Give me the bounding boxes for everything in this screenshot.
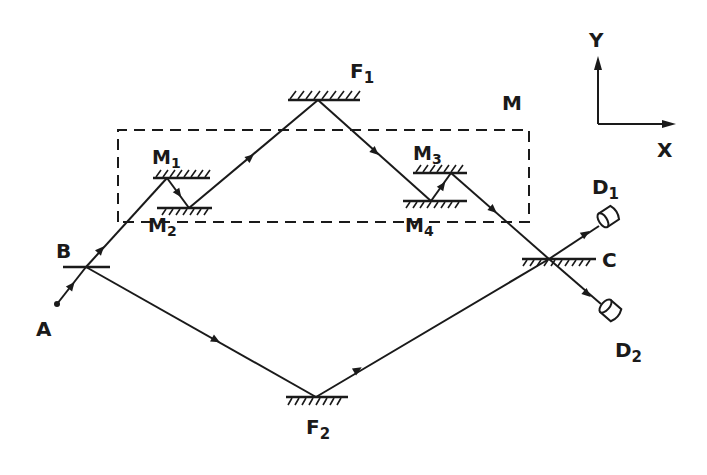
beam-c-d1 bbox=[549, 226, 599, 259]
label-d2: D2 bbox=[615, 338, 642, 366]
detector-d2-icon bbox=[597, 297, 623, 322]
axis-x-label: X bbox=[657, 138, 673, 162]
beam-m2-f1 bbox=[189, 100, 318, 208]
interferometer-diagram: M A B M1 bbox=[0, 0, 707, 475]
axis-y-label: Y bbox=[588, 28, 604, 52]
label-c: C bbox=[602, 248, 617, 272]
label-m4: M4 bbox=[405, 214, 434, 239]
beam-b-f2 bbox=[86, 267, 316, 397]
direction-arrows bbox=[66, 146, 594, 375]
label-b: B bbox=[56, 239, 71, 263]
mirror-m4-icon bbox=[403, 201, 467, 208]
beam-c-d2 bbox=[549, 259, 601, 304]
beam-f2-c bbox=[316, 259, 549, 397]
coordinate-axes bbox=[594, 56, 676, 128]
source-point-icon bbox=[54, 301, 60, 307]
beam-paths bbox=[57, 100, 601, 397]
label-m2: M2 bbox=[148, 214, 177, 239]
module-m-label: M bbox=[502, 91, 522, 115]
mirror-m1-icon bbox=[153, 170, 210, 178]
label-m3: M3 bbox=[413, 142, 442, 167]
beam-m3-c bbox=[451, 173, 549, 259]
beam-combiner-c-icon bbox=[522, 259, 596, 266]
label-d1: D1 bbox=[592, 175, 619, 203]
mirror-f2-icon bbox=[286, 397, 348, 405]
arrow-b-f2-icon bbox=[210, 335, 222, 346]
label-m1: M1 bbox=[152, 146, 181, 171]
label-a: A bbox=[36, 317, 52, 341]
y-axis-arrow-icon bbox=[594, 56, 602, 70]
detector-d1-icon bbox=[595, 205, 620, 229]
label-f2: F2 bbox=[306, 415, 330, 443]
label-f1: F1 bbox=[350, 59, 374, 87]
mirror-f1-icon bbox=[288, 91, 360, 100]
x-axis-arrow-icon bbox=[662, 120, 676, 128]
